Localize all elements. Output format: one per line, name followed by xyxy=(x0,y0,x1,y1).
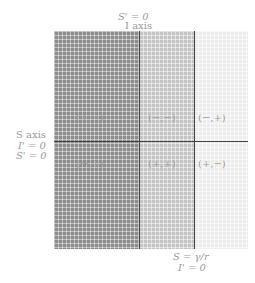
s-axis-line xyxy=(54,141,248,142)
nullcline-s-gamma-r xyxy=(194,31,195,249)
sign-upper-right: (−,+) xyxy=(198,112,226,123)
sign-upper-mid: (−,−) xyxy=(148,112,176,123)
left-label-s-prime: S' = 0 xyxy=(16,151,47,161)
i-axis-line xyxy=(139,31,140,249)
region-dark xyxy=(54,31,139,249)
bottom-label-s-gamma: S = γ/r xyxy=(173,252,209,262)
sign-lower-left: (−,+) xyxy=(76,158,104,169)
region-mid xyxy=(139,31,194,249)
left-label-s-axis: S axis xyxy=(16,130,46,140)
bottom-label-i-prime: I' = 0 xyxy=(178,263,206,273)
sign-lower-right: (+,−) xyxy=(198,158,226,169)
sign-upper-left: (+,−) xyxy=(76,112,104,123)
sign-lower-mid: (+,+) xyxy=(148,158,176,169)
region-light xyxy=(194,31,248,249)
top-label-i-axis: I axis xyxy=(125,21,152,31)
